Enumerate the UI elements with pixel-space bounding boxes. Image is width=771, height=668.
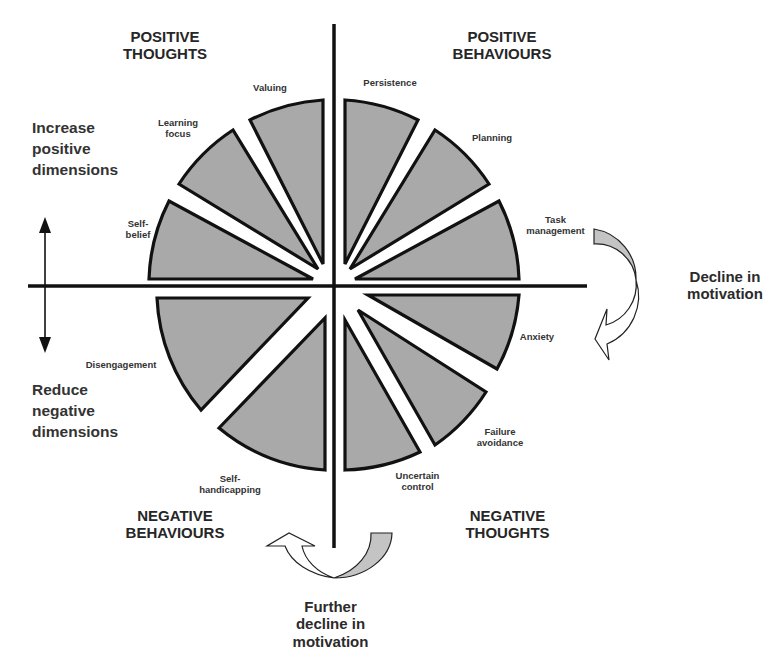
quadrant-negative-behaviours: NEGATIVE BEHAVIOURS xyxy=(110,507,240,542)
wedge-label-self-handicapping: Self- handicapping xyxy=(190,474,270,496)
wedge-label-anxiety: Anxiety xyxy=(512,332,562,343)
decline-arrow-icon xyxy=(594,229,639,360)
reduce-negative-dimensions-label: Reduce negative dimensions xyxy=(32,380,118,443)
wedge-label-task-management: Task management xyxy=(518,215,593,237)
wedge-label-persistence: Persistence xyxy=(350,78,430,89)
wedge-label-planning: Planning xyxy=(462,133,522,144)
wedge-label-learning-focus: Learning focus xyxy=(148,118,208,140)
wedge-label-uncertain-control: Uncertain control xyxy=(385,471,450,493)
wedge-label-failure-avoidance: Failure avoidance xyxy=(465,427,535,449)
further-decline-arrow-icon xyxy=(267,533,392,578)
quadrant-positive-thoughts: POSITIVE THOUGHTS xyxy=(110,28,220,63)
further-decline-in-motivation-label: Further decline in motivation xyxy=(268,598,393,650)
quadrant-negative-thoughts: NEGATIVE THOUGHTS xyxy=(445,507,570,542)
wedge-label-self-belief: Self- belief xyxy=(118,219,158,241)
wedge-label-disengagement: Disengagement xyxy=(76,360,166,371)
decline-in-motivation-label: Decline in motivation xyxy=(680,268,770,303)
increase-positive-dimensions-label: Increase positive dimensions xyxy=(32,118,118,181)
motivation-wheel-diagram xyxy=(0,0,771,668)
quadrant-positive-behaviours: POSITIVE BEHAVIOURS xyxy=(437,28,567,63)
wedge-label-valuing: Valuing xyxy=(240,83,300,94)
